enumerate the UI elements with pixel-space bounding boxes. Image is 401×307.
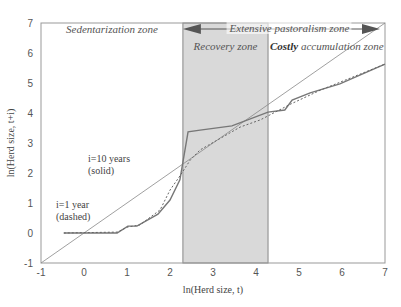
y-tick-label: 4 xyxy=(27,108,33,119)
extensive-pastoralism-zone-label: Extensive pastoralism zone xyxy=(229,22,350,34)
x-tick-label: 5 xyxy=(296,267,302,278)
x-tick-label: 4 xyxy=(253,267,259,278)
y-tick-label: 1 xyxy=(27,198,33,209)
sedentarization-zone-label: Sedentarization zone xyxy=(66,23,158,35)
dashed-series-annotation-style: (dashed) xyxy=(56,211,90,223)
x-tick-label: 3 xyxy=(210,267,216,278)
y-tick-label: 3 xyxy=(27,138,33,149)
solid-series-annotation: i=10 years xyxy=(88,153,130,164)
y-tick-label: 2 xyxy=(27,168,33,179)
recovery-zone-shading xyxy=(183,23,268,263)
x-tick-label: 6 xyxy=(339,267,345,278)
x-axis-label: ln(Herd size, t) xyxy=(183,284,243,296)
x-tick-label: 7 xyxy=(382,267,388,278)
y-tick-label: 5 xyxy=(27,78,33,89)
y-tick-label: 7 xyxy=(27,18,33,29)
x-tick-label: 2 xyxy=(167,267,173,278)
costly-accumulation-zone-label: Costly accumulation zone xyxy=(270,40,384,52)
solid-series-annotation-style: (solid) xyxy=(88,165,114,177)
chart: -101234567-101234567ln(Herd size, t)ln(H… xyxy=(0,0,401,307)
x-tick-label: 0 xyxy=(81,267,87,278)
y-tick-label: 0 xyxy=(27,228,33,239)
y-axis-label: ln(Herd size, t+i) xyxy=(5,109,17,178)
recovery-zone-label: Recovery zone xyxy=(193,40,258,52)
y-tick-label: -1 xyxy=(24,258,33,269)
y-tick-label: 6 xyxy=(27,48,33,59)
x-tick-label: 1 xyxy=(124,267,130,278)
dashed-series-annotation: i=1 year xyxy=(56,199,90,210)
x-tick-label: -1 xyxy=(37,267,46,278)
